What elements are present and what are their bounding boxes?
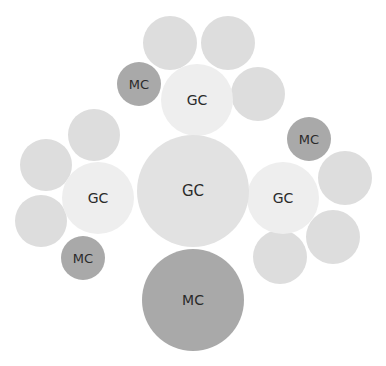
node-label: GC xyxy=(273,190,294,206)
node-label: GC xyxy=(187,92,208,108)
node-n-top-3 xyxy=(231,67,285,121)
neighbor-circle xyxy=(253,230,307,284)
node-n-right-3 xyxy=(253,230,307,284)
node-label: MC xyxy=(73,251,93,266)
node-label: GC xyxy=(88,190,109,206)
node-label: MC xyxy=(182,292,204,308)
node-n-top-2 xyxy=(201,16,255,70)
node-gc-top: GC xyxy=(161,64,233,136)
node-mc-right: MC xyxy=(287,117,331,161)
neighbor-circle xyxy=(201,16,255,70)
neighbor-circle xyxy=(318,151,372,205)
node-n-left-1 xyxy=(68,109,120,161)
node-n-right-2 xyxy=(306,210,360,264)
node-n-top-1 xyxy=(143,16,197,70)
node-label: GC xyxy=(182,182,204,200)
node-n-left-3 xyxy=(15,195,67,247)
neighbor-circle xyxy=(143,16,197,70)
neighbor-circle xyxy=(68,109,120,161)
node-mc-top-left: MC xyxy=(117,62,161,106)
node-label: MC xyxy=(129,77,149,92)
cell-diagram: MCMCMCMCGCGCGCGC xyxy=(0,0,386,366)
node-mc-left: MC xyxy=(61,236,105,280)
node-gc-center: GC xyxy=(137,135,249,247)
neighbor-circle xyxy=(20,139,72,191)
neighbor-circle xyxy=(306,210,360,264)
node-gc-left: GC xyxy=(62,162,134,234)
node-n-right-1 xyxy=(318,151,372,205)
node-gc-right: GC xyxy=(247,162,319,234)
node-mc-bottom: MC xyxy=(142,249,244,351)
node-label: MC xyxy=(299,132,319,147)
neighbor-circle xyxy=(231,67,285,121)
node-n-left-2 xyxy=(20,139,72,191)
neighbor-circle xyxy=(15,195,67,247)
